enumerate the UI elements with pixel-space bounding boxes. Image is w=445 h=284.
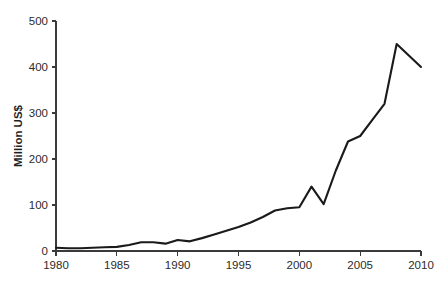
line-chart: 0100200300400500 19801985199019952000200… xyxy=(0,0,445,284)
series-line-value xyxy=(56,44,421,248)
chart-container: 0100200300400500 19801985199019952000200… xyxy=(0,0,445,284)
x-axis: 1980198519901995200020052010 xyxy=(43,251,434,271)
x-tick-label: 2010 xyxy=(408,259,434,271)
data-series xyxy=(56,44,421,248)
x-tick-label: 1990 xyxy=(165,259,191,271)
y-tick-label: 0 xyxy=(42,245,48,257)
y-tick-label: 100 xyxy=(29,199,48,211)
x-tick-label: 1980 xyxy=(43,259,69,271)
x-tick-label: 2005 xyxy=(347,259,373,271)
y-axis-title: Million US$ xyxy=(12,104,24,167)
y-tick-label: 300 xyxy=(29,107,48,119)
y-axis: 0100200300400500 xyxy=(29,15,56,257)
y-tick-label: 200 xyxy=(29,153,48,165)
x-tick-label: 1995 xyxy=(226,259,252,271)
y-tick-label: 500 xyxy=(29,15,48,27)
y-axis-title-label: Million US$ xyxy=(12,104,24,167)
y-tick-label: 400 xyxy=(29,61,48,73)
x-tick-label: 1985 xyxy=(104,259,130,271)
x-tick-label: 2000 xyxy=(287,259,313,271)
